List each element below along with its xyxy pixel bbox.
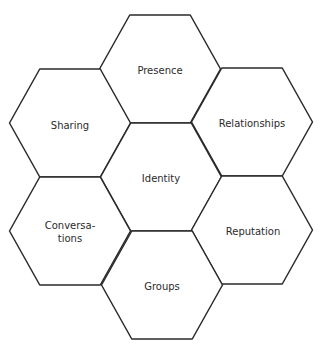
hex-label-presence: Presence bbox=[137, 64, 182, 77]
hex-label-reputation: Reputation bbox=[226, 225, 281, 238]
honeycomb-diagram: Presence Sharing Relationships Identity … bbox=[0, 0, 322, 351]
hex-label-groups: Groups bbox=[144, 280, 180, 293]
hex-label-relationships: Relationships bbox=[219, 117, 286, 130]
hex-label-conversations: Conversa- tions bbox=[45, 219, 96, 245]
hex-label-sharing: Sharing bbox=[51, 119, 89, 132]
hex-label-identity: Identity bbox=[142, 172, 180, 185]
